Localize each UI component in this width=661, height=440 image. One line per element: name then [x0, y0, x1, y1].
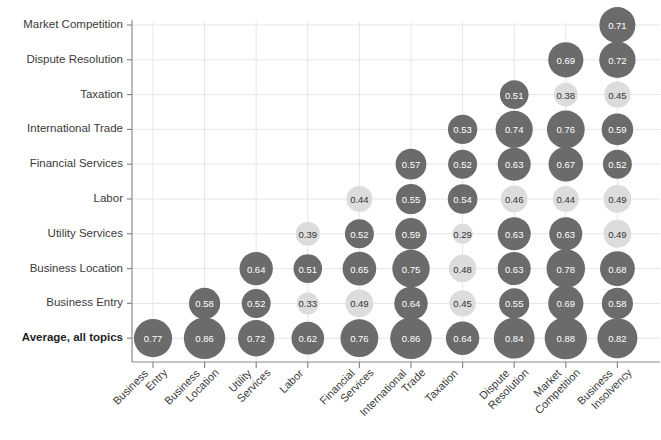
bubble-value-label: 0.51: [505, 90, 524, 101]
svg-text:Labor: Labor: [277, 367, 306, 396]
bubble-value-label: 0.44: [557, 194, 576, 205]
bubble-value-label: 0.33: [299, 298, 318, 309]
bubble-value-label: 0.68: [608, 264, 627, 275]
bubble-value-label: 0.63: [505, 264, 524, 275]
bubble-value-label: 0.52: [608, 159, 627, 170]
bubble-matrix-chart: Market CompetitionDispute ResolutionTaxa…: [0, 0, 661, 440]
y-axis-label: Financial Services: [30, 157, 124, 169]
x-axis-label: DisputeResolution: [476, 357, 530, 411]
bubble-value-label: 0.76: [350, 333, 369, 344]
bubble-value-label: 0.86: [195, 333, 214, 344]
bubble-value-label: 0.54: [453, 194, 472, 205]
y-axis-label: Labor: [94, 192, 124, 204]
bubble-value-label: 0.84: [505, 333, 524, 344]
bubble-value-label: 0.44: [350, 194, 369, 205]
bubble-value-label: 0.29: [453, 229, 472, 240]
bubble-value-label: 0.64: [247, 264, 266, 275]
bubble-value-label: 0.58: [195, 298, 214, 309]
bubble-value-label: 0.45: [608, 90, 627, 101]
bubble-value-label: 0.46: [505, 194, 524, 205]
x-axis-label: Labor: [277, 367, 306, 396]
bubble-value-label: 0.63: [557, 229, 576, 240]
bubble-value-label: 0.63: [505, 159, 524, 170]
bubble-value-label: 0.52: [350, 229, 369, 240]
bubble-value-label: 0.39: [299, 229, 318, 240]
y-axis-label: International Trade: [27, 122, 123, 134]
bubble-value-label: 0.59: [608, 124, 627, 135]
bubble-value-label: 0.38: [557, 90, 576, 101]
bubble-value-label: 0.49: [350, 298, 369, 309]
svg-text:Entry: Entry: [143, 366, 170, 393]
y-axis-label: Business Entry: [46, 296, 123, 308]
bubble-value-label: 0.72: [608, 55, 627, 66]
bubble-value-label: 0.78: [557, 264, 576, 275]
bubble-value-label: 0.64: [402, 298, 421, 309]
bubble-value-label: 0.58: [608, 298, 627, 309]
y-axis-label: Utility Services: [48, 227, 124, 239]
bubble-value-label: 0.82: [608, 333, 627, 344]
bubble-value-label: 0.55: [402, 194, 421, 205]
bubble-value-label: 0.49: [608, 229, 627, 240]
bubble-value-label: 0.65: [350, 264, 369, 275]
bubble-value-label: 0.86: [402, 333, 421, 344]
bubble-value-label: 0.64: [453, 333, 472, 344]
bubble-value-label: 0.63: [505, 229, 524, 240]
bubble-value-label: 0.72: [247, 333, 266, 344]
bubble-value-label: 0.76: [557, 124, 576, 135]
bubble-value-label: 0.52: [453, 159, 472, 170]
bubble-value-label: 0.51: [299, 264, 318, 275]
bubble-value-label: 0.48: [453, 264, 472, 275]
y-axis-label: Market Competition: [23, 18, 123, 30]
x-axis-label: BusinessEntry: [110, 357, 169, 416]
bubble-value-label: 0.67: [557, 159, 576, 170]
y-axis-label: Business Location: [30, 262, 123, 274]
bubble-value-label: 0.69: [557, 298, 576, 309]
x-axis-label: Taxation: [423, 367, 460, 404]
bubble-value-label: 0.53: [453, 124, 472, 135]
bubble-value-label: 0.55: [505, 298, 524, 309]
bubble-value-label: 0.88: [557, 333, 576, 344]
bubble-value-label: 0.52: [247, 298, 266, 309]
bubble-value-label: 0.77: [144, 333, 163, 344]
y-axis-label: Dispute Resolution: [26, 53, 123, 65]
bubble-value-label: 0.69: [557, 55, 576, 66]
chart-canvas: Market CompetitionDispute ResolutionTaxa…: [0, 0, 661, 440]
y-axis-label: Average, all topics: [22, 331, 123, 343]
y-axis-label: Taxation: [80, 88, 123, 100]
bubble-value-label: 0.45: [453, 298, 472, 309]
x-axis-label: BusinessInsolvency: [575, 357, 634, 416]
x-axis-label: MarketCompetition: [523, 357, 582, 416]
bubble-value-label: 0.74: [505, 124, 524, 135]
x-axis-label: BusinessLocation: [162, 357, 221, 416]
bubble-value-label: 0.62: [299, 333, 318, 344]
svg-text:Taxation: Taxation: [423, 367, 460, 404]
bubble-value-label: 0.59: [402, 229, 421, 240]
bubble-value-label: 0.71: [608, 20, 627, 31]
bubble-value-label: 0.49: [608, 194, 627, 205]
x-axis-label: UtilityServices: [225, 357, 273, 405]
bubble-value-label: 0.57: [402, 159, 421, 170]
bubble-value-label: 0.75: [402, 264, 421, 275]
